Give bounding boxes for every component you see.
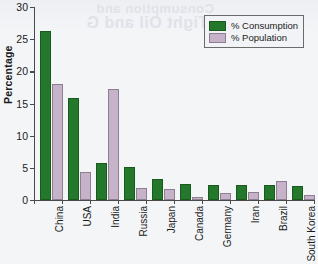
bar-consumption (264, 185, 275, 200)
y-tick-label: 25 (16, 33, 28, 45)
x-tick-label: Russia (138, 206, 149, 237)
bar-consumption (208, 185, 219, 200)
x-tick (314, 200, 315, 204)
chart-legend: % Consumption% Population (204, 15, 304, 48)
y-tick (30, 7, 34, 8)
y-tick (30, 71, 34, 72)
legend-label: % Consumption (231, 20, 298, 31)
y-tick-label: 30 (16, 1, 28, 13)
y-tick (30, 168, 34, 169)
x-tick-label: Canada (194, 206, 205, 241)
legend-swatch-icon (209, 33, 226, 43)
bar-consumption (292, 186, 303, 200)
legend-label: % Population (231, 32, 287, 43)
x-tick (174, 200, 175, 204)
x-tick-label: USA (82, 206, 93, 227)
x-tick (146, 200, 147, 204)
bar-population (136, 188, 147, 200)
x-tick-label: Japan (166, 206, 177, 233)
y-tick-label: 15 (16, 98, 28, 110)
bar-population (276, 181, 287, 200)
x-tick-label: Iran (250, 206, 261, 223)
x-tick (286, 200, 287, 204)
x-tick (90, 200, 91, 204)
bar-group (96, 7, 120, 200)
bar-group (40, 7, 64, 200)
bar-consumption (40, 31, 51, 200)
y-axis-line (34, 7, 35, 200)
bar-population (220, 193, 231, 200)
y-tick-label: 5 (22, 162, 28, 174)
x-tick-label: South Korea (306, 206, 317, 262)
y-tick-label: 0 (22, 194, 28, 206)
legend-swatch-icon (209, 21, 226, 31)
bar-group (68, 7, 92, 200)
legend-item: % Consumption (209, 20, 298, 31)
x-tick (62, 200, 63, 204)
y-tick (30, 104, 34, 105)
bar-group (124, 7, 148, 200)
bar-consumption (152, 179, 163, 200)
bar-population (80, 172, 91, 200)
y-tick (30, 136, 34, 137)
y-axis-title: Percentage (2, 45, 14, 104)
x-tick-label: India (110, 206, 121, 228)
bar-population (164, 189, 175, 200)
y-tick-label: 10 (16, 130, 28, 142)
bar-consumption (124, 167, 135, 200)
bar-chart-figure: Consumption and Tight Oil and G Percenta… (0, 0, 318, 264)
legend-item: % Population (209, 32, 298, 43)
x-tick-label: China (54, 206, 65, 232)
bar-population (248, 192, 259, 200)
bar-consumption (96, 163, 107, 200)
y-tick-label: 20 (16, 65, 28, 77)
x-tick (202, 200, 203, 204)
x-tick-label: Brazil (278, 206, 289, 231)
bar-consumption (180, 184, 191, 200)
x-tick-label: Germany (222, 206, 233, 247)
x-tick (34, 200, 35, 204)
x-tick (230, 200, 231, 204)
bar-population (52, 84, 63, 200)
x-tick (118, 200, 119, 204)
bar-group (180, 7, 204, 200)
bar-population (108, 89, 119, 200)
bar-group (152, 7, 176, 200)
bar-consumption (236, 185, 247, 200)
bar-consumption (68, 98, 79, 200)
y-tick (30, 39, 34, 40)
x-tick (258, 200, 259, 204)
